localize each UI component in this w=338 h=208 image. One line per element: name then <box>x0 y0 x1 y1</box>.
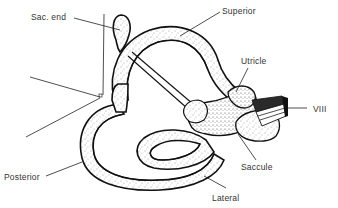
superior-canal <box>112 27 240 104</box>
label-superior: Superior <box>222 7 256 16</box>
label-utricle: Utricle <box>241 57 267 66</box>
labyrinth-diagram <box>0 0 338 208</box>
lateral-canal <box>137 130 214 169</box>
label-posterior: Posterior <box>4 173 40 182</box>
label-sac-end: Sac. end <box>31 13 66 22</box>
label-saccule: Saccule <box>241 163 273 172</box>
label-viii: VIII <box>313 105 327 114</box>
label-lateral: Lateral <box>212 194 239 203</box>
